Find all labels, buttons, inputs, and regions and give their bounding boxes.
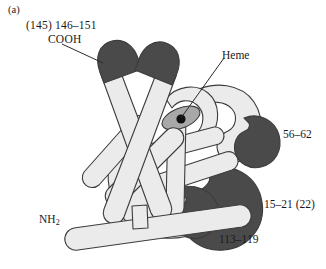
label-cooh-residue-range: (145) 146–151	[26, 19, 97, 32]
label-nh2-text: NH	[39, 213, 56, 225]
connector-stubs	[132, 205, 148, 229]
helix-second-dark-cap	[135, 42, 179, 85]
label-segment-15-21: 15–21 (22)	[264, 198, 315, 211]
label-segment-56-62: 56–62	[283, 128, 312, 141]
label-heme: Heme	[222, 49, 249, 62]
panel-letter: (a)	[8, 4, 20, 16]
label-cooh-terminus: COOH	[48, 33, 81, 46]
heme-iron-dot	[176, 114, 185, 123]
stub-center-lower	[132, 205, 148, 229]
cooh-leader-line	[62, 44, 103, 63]
label-nh2-terminus: NH2	[39, 213, 60, 226]
helix-cooh-dark-cap	[98, 40, 142, 83]
figure-panel-a: (a) (145) 146–151 COOH Heme 56–62 15–21 …	[0, 0, 326, 269]
label-segment-113-119: 113–119	[219, 233, 258, 246]
label-nh2-subscript: 2	[56, 218, 60, 227]
